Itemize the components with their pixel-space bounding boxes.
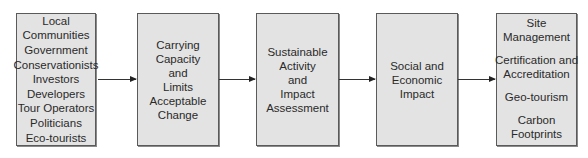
- label: Acceptable: [150, 94, 207, 108]
- arrow-3: [339, 79, 375, 80]
- group-certification: Certification and Accreditation: [495, 53, 578, 81]
- label: Sustainable: [267, 45, 327, 59]
- label: Impact: [280, 87, 315, 101]
- label: and: [168, 66, 187, 80]
- arrow-1: [98, 79, 136, 80]
- label: Eco-tourists: [26, 131, 87, 146]
- label: Local: [42, 14, 70, 29]
- label: Geo-tourism: [505, 90, 568, 104]
- label: Economic: [392, 73, 443, 87]
- label: Developers: [27, 87, 85, 102]
- label: Accreditation: [495, 67, 578, 81]
- box-outcomes: Site Management Certification and Accred…: [496, 13, 577, 146]
- label: Limits: [163, 80, 193, 94]
- arrow-2: [219, 79, 255, 80]
- label: Carbon: [511, 113, 562, 127]
- label: Footprints: [511, 127, 562, 141]
- arrow-4: [458, 79, 495, 80]
- label: Investors: [33, 72, 80, 87]
- label: Impact: [400, 87, 435, 101]
- label: Politicians: [30, 116, 82, 131]
- label: and: [288, 73, 307, 87]
- box-sustainable-activity: Sustainable Activity and Impact Assessme…: [256, 13, 339, 146]
- label: Change: [158, 108, 198, 122]
- label: Social and: [390, 59, 444, 73]
- label: Certification and: [495, 53, 578, 67]
- label: Conservationists: [14, 58, 99, 73]
- label: Site: [503, 16, 570, 30]
- group-site-management: Site Management: [503, 16, 570, 44]
- group-carbon-footprints: Carbon Footprints: [511, 113, 562, 141]
- label: Communities: [22, 28, 89, 43]
- label: Capacity: [156, 52, 201, 66]
- box-carrying-capacity: Carrying Capacity and Limits Acceptable …: [137, 13, 219, 146]
- label: Management: [503, 30, 570, 44]
- label: Carrying: [156, 38, 199, 52]
- group-geo-tourism: Geo-tourism: [505, 90, 568, 104]
- box-social-economic: Social and Economic Impact: [376, 13, 458, 146]
- label: Assessment: [266, 101, 329, 115]
- box-stakeholders: Local Communities Government Conservatio…: [16, 13, 96, 146]
- label: Tour Operators: [18, 101, 95, 116]
- label: Government: [24, 43, 87, 58]
- label: Activity: [279, 59, 315, 73]
